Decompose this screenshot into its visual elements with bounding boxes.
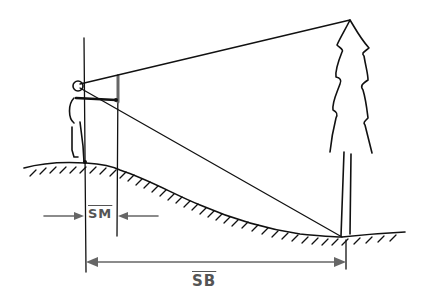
label-sb: SB [192, 272, 216, 290]
diagram-canvas [0, 0, 429, 307]
tree [330, 20, 372, 236]
observer-body [70, 98, 85, 162]
tree-crown [330, 20, 372, 153]
observer-hand [114, 98, 118, 102]
tree-trunk [341, 152, 351, 236]
observer-arm [76, 98, 116, 100]
label-sm: SM [88, 206, 112, 221]
sight-line-to-top [80, 20, 350, 84]
observer-figure [70, 81, 119, 164]
dimension-sb [86, 240, 346, 269]
ground-line [24, 163, 405, 237]
observer-foot [83, 160, 87, 164]
